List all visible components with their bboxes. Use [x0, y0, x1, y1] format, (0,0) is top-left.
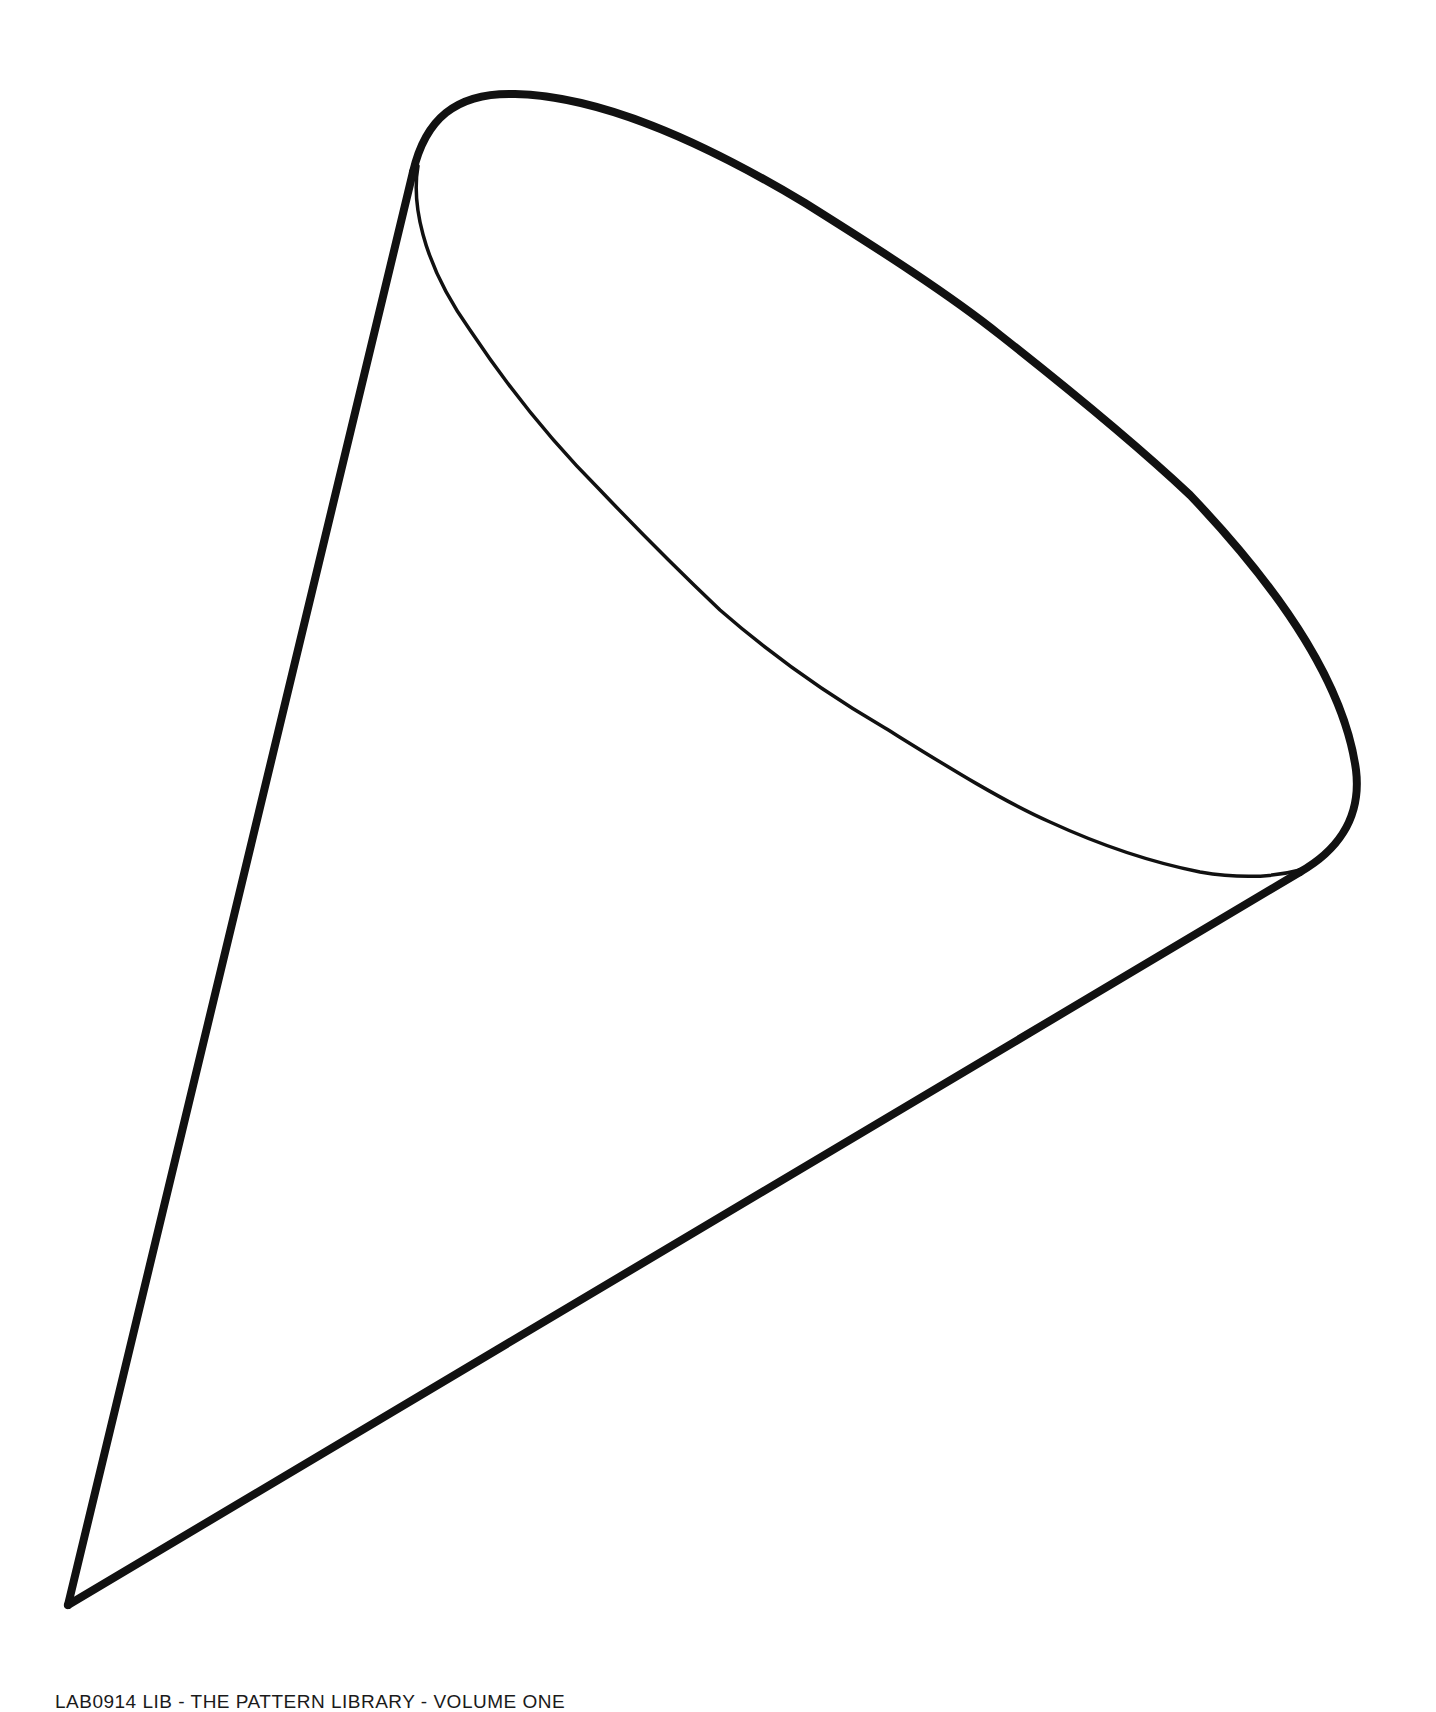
- cone-left-edge: [68, 172, 413, 1605]
- footer-caption: LAB0914 LIB - THE PATTERN LIBRARY - VOLU…: [55, 1691, 565, 1712]
- cone-bottom-edge: [68, 872, 1300, 1605]
- cone-rim-outer: [413, 94, 1357, 872]
- cone-rim-inner: [416, 166, 1300, 876]
